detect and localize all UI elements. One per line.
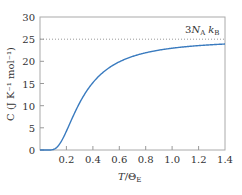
x-tick-0.2: 0.2: [58, 154, 74, 165]
x-tick-0.4: 0.4: [85, 154, 101, 165]
heat-capacity-curve: [40, 44, 225, 150]
y-tick-0: 0: [29, 145, 35, 156]
x-tick-1.4: 1.4: [217, 154, 233, 165]
x-axis-label: T/ΘE: [118, 171, 141, 184]
asymptote-label: 3NAkB: [185, 24, 219, 37]
plot-frame: [40, 17, 225, 150]
x-axis: 0.2 0.4 0.6 0.8 1.0 1.2 1.4: [58, 146, 233, 165]
y-tick-15: 15: [22, 79, 35, 90]
y-tick-20: 20: [22, 56, 35, 67]
y-tick-10: 10: [22, 101, 35, 112]
y-tick-30: 30: [22, 12, 35, 23]
chart: 0 5 10 15 20 25 30 0.2 0.4 0.6 0.8 1.0 1…: [0, 0, 242, 195]
y-tick-5: 5: [29, 123, 35, 134]
x-tick-1.2: 1.2: [191, 154, 207, 165]
y-axis-label: C (J K⁻¹ mol⁻¹): [5, 47, 16, 121]
x-tick-0.8: 0.8: [138, 154, 154, 165]
x-tick-1.0: 1.0: [164, 154, 180, 165]
y-tick-25: 25: [22, 34, 35, 45]
x-tick-0.6: 0.6: [111, 154, 127, 165]
y-axis: 0 5 10 15 20 25 30: [22, 12, 44, 156]
